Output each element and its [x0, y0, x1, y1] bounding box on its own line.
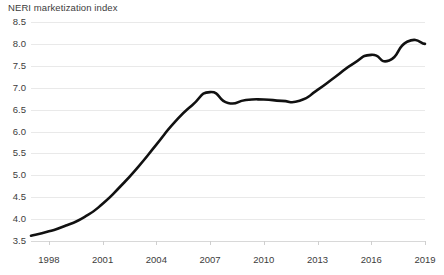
- x-tick-label: 2013: [307, 254, 328, 265]
- x-tick-label: 2010: [253, 254, 274, 265]
- x-tick-mark: [210, 241, 211, 245]
- x-tick-mark: [318, 241, 319, 245]
- x-tick-label: 2001: [92, 254, 113, 265]
- x-tick-label: 2007: [200, 254, 221, 265]
- x-tick-label: 1998: [38, 254, 59, 265]
- x-tick-mark: [371, 241, 372, 245]
- x-tick-mark: [49, 241, 50, 245]
- x-tick-label: 2019: [414, 254, 435, 265]
- x-tick-mark: [264, 241, 265, 245]
- x-tick-mark: [156, 241, 157, 245]
- x-tick-mark: [425, 241, 426, 245]
- x-axis: 19982001200420072010201320162019: [0, 0, 444, 275]
- x-tick-label: 2004: [146, 254, 167, 265]
- x-tick-label: 2016: [361, 254, 382, 265]
- x-tick-mark: [103, 241, 104, 245]
- neri-marketization-index-chart: NERI marketization index 8.58.07.57.06.5…: [0, 0, 444, 275]
